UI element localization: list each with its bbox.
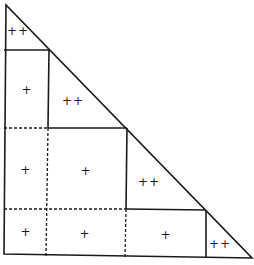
region-label: + (160, 229, 171, 241)
triangle-partition-diagram: ++ + ++ + + ++ + + + ++ (0, 0, 254, 265)
solid-divider-line (126, 128, 127, 209)
dashed-divider-line (125, 209, 126, 257)
region-label: ++ (62, 95, 84, 107)
region-label: + (79, 228, 90, 240)
region-label: + (20, 164, 31, 176)
solid-divider-line (126, 209, 206, 210)
region-label: ++ (209, 238, 231, 250)
diagram-canvas (0, 0, 254, 265)
region-label: ++ (7, 25, 29, 37)
dashed-divider-line (46, 128, 48, 256)
solid-divider-line (48, 50, 49, 128)
region-label: ++ (138, 176, 160, 188)
solid-dividers (4, 50, 206, 257)
triangle-outline (4, 5, 252, 258)
region-label: + (21, 84, 32, 96)
region-label: + (20, 226, 31, 238)
region-label: + (80, 165, 91, 177)
